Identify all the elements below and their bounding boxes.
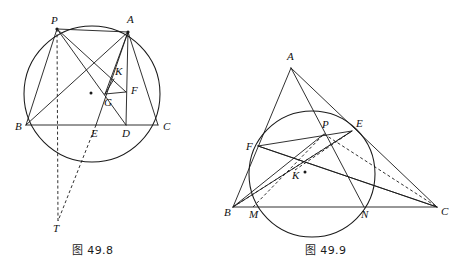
geometry-figure-board: PABCDEFGKTABCMNFEPK 图 49.8 图 49.9 xyxy=(0,0,452,273)
dashed-segment-PC xyxy=(324,134,437,207)
point-label-K: K xyxy=(114,65,123,77)
segment-AB xyxy=(233,68,291,207)
geometry-figures-canvas: PABCDEFGKTABCMNFEPK xyxy=(0,0,452,273)
fig-49-8: PABCDEFGKT xyxy=(15,13,171,234)
point-label-E: E xyxy=(90,127,98,139)
segment-AG xyxy=(105,32,128,94)
point-label-F: F xyxy=(130,84,138,96)
dashed-segment-ET xyxy=(58,125,96,221)
circle-center-dot xyxy=(304,171,307,174)
point-label-B: B xyxy=(15,120,22,132)
circle-center-dot xyxy=(90,92,93,95)
point-label-K: K xyxy=(291,169,300,181)
segment-PF xyxy=(57,29,126,92)
point-label-F: F xyxy=(245,140,253,152)
segment-AC xyxy=(128,32,158,125)
point-label-M: M xyxy=(248,208,259,220)
segment-GF xyxy=(105,92,126,94)
point-label-P: P xyxy=(50,14,58,26)
point-label-E: E xyxy=(355,117,363,129)
segment-AD xyxy=(126,32,128,125)
figure-caption-right: 图 49.9 xyxy=(305,241,346,257)
point-label-B: B xyxy=(224,206,231,218)
point-label-C: C xyxy=(441,205,449,217)
vertex-dot-A xyxy=(126,30,129,33)
segment-FC xyxy=(258,146,437,207)
point-label-T: T xyxy=(53,222,60,234)
vertex-dot-P xyxy=(55,27,58,30)
fig-49-9: ABCMNFEPK xyxy=(224,50,449,237)
point-label-N: N xyxy=(360,208,369,220)
point-label-G: G xyxy=(104,96,112,108)
point-label-A: A xyxy=(286,50,294,62)
point-label-P: P xyxy=(321,118,329,130)
figure-caption-left: 图 49.8 xyxy=(72,241,113,257)
segment-FE xyxy=(258,131,352,146)
point-label-A: A xyxy=(126,13,134,25)
point-label-D: D xyxy=(121,127,130,139)
segment-AN xyxy=(291,68,364,207)
point-label-C: C xyxy=(163,120,171,132)
